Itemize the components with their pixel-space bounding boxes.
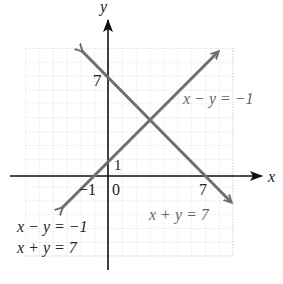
tick-origin: 0: [112, 181, 120, 198]
y-axis-label: y: [98, 0, 108, 16]
tick-y-7: 7: [93, 71, 102, 90]
tick-y-1: 1: [114, 157, 122, 173]
tick-x-7: 7: [199, 181, 207, 198]
system-eq1: x − y = −1: [16, 218, 88, 236]
x-axis-label: x: [267, 168, 275, 185]
label-line1: x − y = −1: [182, 90, 254, 108]
tick-x-neg1: −1: [79, 181, 96, 198]
coordinate-plane: y x 7 1 −1 0 7 x − y = −1 x + y = 7 x − …: [0, 0, 283, 284]
system-eq2: x + y = 7: [16, 239, 78, 257]
label-line2: x + y = 7: [148, 206, 210, 224]
